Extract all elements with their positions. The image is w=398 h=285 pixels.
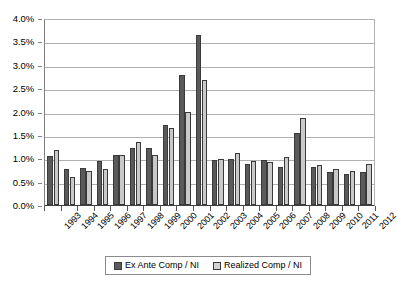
y-axis-tick-mark: [38, 89, 42, 90]
legend-swatch-icon: [114, 262, 122, 270]
bar-group: [61, 20, 77, 205]
y-axis-tick-mark: [38, 183, 42, 184]
bar: [360, 172, 366, 205]
bar: [327, 172, 333, 205]
y-axis-tick-label: 3.0%: [13, 61, 34, 71]
bar-group: [242, 20, 258, 205]
chart-legend: Ex Ante Comp / NIRealized Comp / NI: [105, 256, 311, 275]
y-axis-tick-label: 0.5%: [13, 178, 34, 188]
legend-item: Ex Ante Comp / NI: [114, 261, 199, 270]
bar: [284, 157, 290, 205]
bar-group: [94, 20, 110, 205]
bar: [366, 164, 372, 205]
bar: [267, 162, 273, 205]
bar-group: [275, 20, 291, 205]
bar-group: [292, 20, 308, 205]
bar: [344, 174, 350, 205]
x-axis-labels: 1993199419951996199719981999200020012002…: [44, 211, 375, 253]
bar-group: [210, 20, 226, 205]
y-axis-tick-label: 0.0%: [13, 201, 34, 211]
bar: [294, 133, 300, 205]
legend-label: Ex Ante Comp / NI: [125, 261, 199, 270]
bar: [54, 150, 60, 205]
bar-group: [78, 20, 94, 205]
bar: [103, 169, 109, 205]
bar: [97, 161, 103, 205]
bar: [146, 148, 152, 206]
y-axis-tick-mark: [38, 206, 42, 207]
bar: [70, 177, 76, 205]
bar: [333, 169, 339, 205]
x-axis-tick-label: 2011: [361, 211, 381, 231]
x-axis-tick-label: 2007: [295, 211, 315, 231]
bar: [317, 165, 323, 205]
y-axis-tick-label: 1.5%: [13, 131, 34, 141]
y-axis-tick-mark: [38, 136, 42, 137]
bar: [169, 128, 175, 205]
y-axis-tick-mark: [38, 113, 42, 114]
y-axis-tick-label: 2.0%: [13, 108, 34, 118]
x-axis-tick-label: 2009: [328, 211, 348, 231]
y-axis-tick-mark: [38, 66, 42, 67]
bar-group: [111, 20, 127, 205]
bar: [185, 112, 191, 206]
bar: [350, 171, 356, 205]
legend-label: Realized Comp / NI: [224, 261, 302, 270]
bar: [179, 75, 185, 205]
y-axis-tick-label: 2.5%: [13, 84, 34, 94]
y-axis-tick-label: 4.0%: [13, 14, 34, 24]
x-axis-tick-label: 1998: [146, 211, 166, 231]
bar: [228, 159, 234, 205]
bar: [278, 167, 284, 205]
x-axis-tick-label: 2012: [377, 211, 397, 231]
y-axis-tick-label: 1.0%: [13, 155, 34, 165]
y-axis-tick-mark: [38, 19, 42, 20]
bar: [119, 155, 125, 205]
bar: [80, 168, 86, 205]
bar: [235, 153, 241, 205]
y-axis-tick-mark: [38, 42, 42, 43]
bar-group: [308, 20, 324, 205]
bar: [212, 160, 218, 205]
bar: [64, 169, 70, 205]
plot-area: [44, 19, 375, 206]
legend-item: Realized Comp / NI: [213, 261, 302, 270]
bar: [251, 161, 257, 205]
bar: [261, 160, 267, 205]
bar: [311, 167, 317, 205]
bars-layer: [45, 20, 374, 205]
legend-swatch-icon: [213, 262, 221, 270]
bar-group: [341, 20, 357, 205]
bar: [202, 80, 208, 205]
bar: [130, 148, 136, 206]
bar: [86, 171, 92, 205]
y-axis: 0.0%0.5%1.0%1.5%2.0%2.5%3.0%3.5%4.0%: [0, 0, 42, 285]
bar-group: [127, 20, 143, 205]
bar: [47, 156, 53, 205]
bar-group: [226, 20, 242, 205]
x-axis-tick-label: 2000: [179, 211, 199, 231]
bar: [113, 155, 119, 205]
y-axis-tick-mark: [38, 159, 42, 160]
bar-group: [177, 20, 193, 205]
bar: [300, 118, 306, 205]
bar: [163, 125, 169, 205]
bar-group: [259, 20, 275, 205]
bar: [196, 35, 202, 205]
bar: [136, 142, 142, 205]
bar-group: [325, 20, 341, 205]
bar-group: [144, 20, 160, 205]
x-axis-tick-mark: [375, 206, 376, 211]
bar: [152, 155, 158, 205]
bar-group: [358, 20, 374, 205]
bar-group: [193, 20, 209, 205]
bar-group: [45, 20, 61, 205]
bar-group: [160, 20, 176, 205]
bar: [218, 159, 224, 205]
y-axis-tick-label: 3.5%: [13, 38, 34, 48]
bar: [245, 164, 251, 205]
